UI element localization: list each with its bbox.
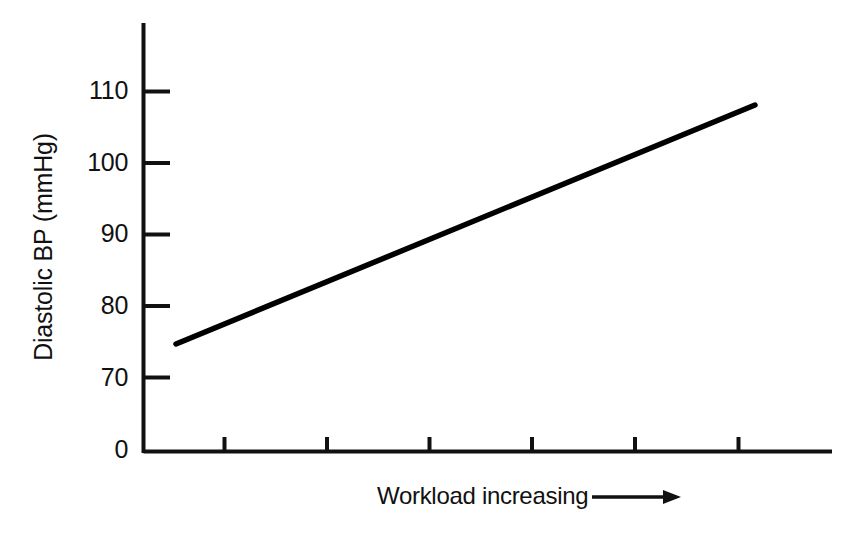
y-tick-label-80: 80 [60,293,128,318]
y-tick-label-100: 100 [60,150,128,175]
y-tick-label-0: 0 [60,437,128,462]
y-tick-label-70: 70 [60,365,128,390]
y-tick-label-90: 90 [60,221,128,246]
figure-diastolic-bp-vs-workload: 110 100 90 80 70 0 Diastolic BP (mmHg) W… [0,0,859,534]
chart-plot-area [0,0,859,534]
y-axis-ticks [143,92,170,378]
y-tick-label-110: 110 [60,78,128,103]
workload-arrow-icon [592,490,681,504]
x-axis-ticks [225,437,739,451]
y-axis-title: Diastolic BP (mmHg) [31,133,56,361]
x-axis-title: Workload increasing [377,484,588,508]
data-line-diastolic-bp [176,105,755,344]
